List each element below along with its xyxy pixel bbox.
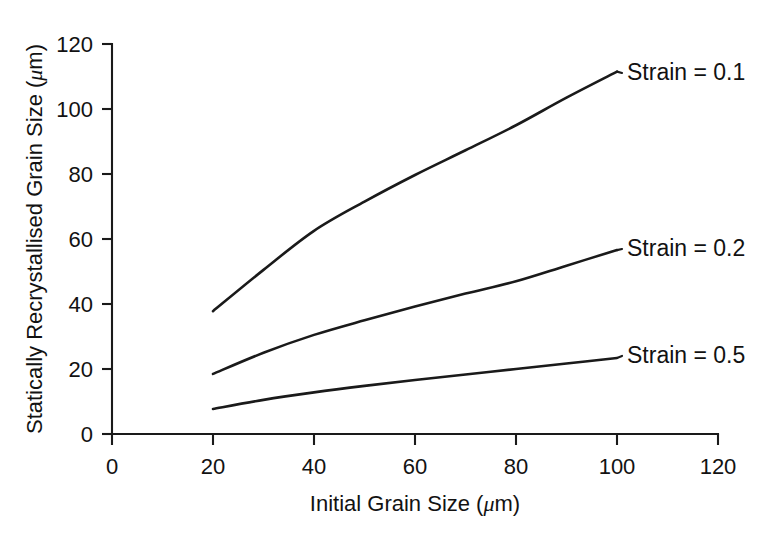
x-tick-label-40: 40 — [302, 454, 326, 479]
x-tick-label-100: 100 — [599, 454, 636, 479]
x-tick-label-60: 60 — [403, 454, 427, 479]
annotation-leader-strain-0-2 — [617, 249, 622, 250]
x-axis-title-text: Initial Grain Size ( — [310, 491, 484, 516]
line-chart-canvas: 0 20 40 60 80 100 120 0 20 40 60 80 100 … — [0, 0, 759, 538]
y-tick-label-40: 40 — [69, 292, 93, 317]
series-curve-strain-0-2 — [213, 250, 617, 374]
y-axis-title-mu: μ — [22, 70, 47, 82]
x-tick-label-80: 80 — [504, 454, 528, 479]
y-axis-ticks — [102, 44, 112, 434]
annotation-leader-strain-0-5 — [617, 356, 622, 358]
x-axis-title-mu: μ — [482, 491, 494, 516]
annotation-label-strain-0-2: Strain = 0.2 — [627, 235, 745, 261]
x-tick-label-120: 120 — [700, 454, 737, 479]
x-axis-ticks — [112, 434, 718, 445]
x-tick-labels: 0 20 40 60 80 100 120 — [106, 454, 736, 479]
series-curve-strain-0-5 — [213, 358, 617, 409]
annotation-label-strain-0-5: Strain = 0.5 — [627, 342, 745, 368]
annotation-label-strain-0-1: Strain = 0.1 — [627, 59, 745, 85]
y-axis-title: Statically Recrystallised Grain Size (μm… — [22, 44, 47, 434]
x-axis-title: Initial Grain Size (μm) — [310, 491, 520, 516]
y-tick-label-80: 80 — [69, 162, 93, 187]
y-tick-label-100: 100 — [56, 97, 93, 122]
y-tick-label-120: 120 — [56, 32, 93, 57]
y-tick-label-0: 0 — [81, 422, 93, 447]
y-tick-label-20: 20 — [69, 357, 93, 382]
x-axis-title-unit: m) — [495, 491, 521, 516]
y-tick-labels: 0 20 40 60 80 100 120 — [56, 32, 93, 447]
y-axis-title-text: Statically Recrystallised Grain Size ( — [22, 80, 47, 434]
series-curve-strain-0-1 — [213, 72, 617, 312]
x-tick-label-0: 0 — [106, 454, 118, 479]
annotation-leader-strain-0-1 — [617, 72, 622, 73]
y-axis-title-unit: m) — [22, 44, 47, 70]
chart-figure: 0 20 40 60 80 100 120 0 20 40 60 80 100 … — [0, 0, 759, 538]
x-tick-label-20: 20 — [201, 454, 225, 479]
y-tick-label-60: 60 — [69, 227, 93, 252]
